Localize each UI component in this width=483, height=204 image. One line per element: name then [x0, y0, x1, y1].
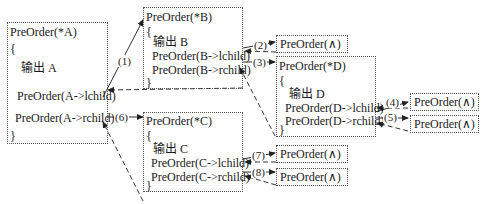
- box-C-rchild-call: PreOrder(C->rchild): [151, 170, 250, 184]
- box-B-rchild-call: PreOrder(B->rchild): [152, 63, 251, 77]
- null-call-box-D-right: PreOrder(∧): [410, 115, 479, 133]
- box-A-open-brace: {: [10, 42, 16, 56]
- box-A-rchild-call: PreOrder(A->rchild): [15, 111, 114, 125]
- step-label-5: (5): [383, 111, 398, 123]
- box-B-lchild-call: PreOrder(B->lchild): [152, 49, 250, 63]
- return-arrow-C: [103, 122, 143, 201]
- box-D-output: 输出 D: [289, 87, 325, 101]
- null-call-box-D-left: PreOrder(∧): [410, 93, 479, 111]
- box-D-rchild-call: PreOrder(D->rchild): [285, 114, 384, 128]
- preorder-box-D: PreOrder(*D) { 输出 D PreOrder(D->lchild) …: [276, 56, 376, 137]
- box-D-title: PreOrder(*D): [279, 59, 346, 73]
- box-C-close-brace: }: [146, 179, 152, 193]
- box-B-open-brace: {: [146, 25, 152, 39]
- box-C-title: PreOrder(*C): [146, 114, 212, 128]
- box-D-open-brace: {: [279, 74, 285, 88]
- step-label-1: (1): [117, 55, 132, 67]
- step-label-2: (2): [253, 39, 268, 51]
- preorder-box-A: PreOrder(*A) { 输出 A PreOrder(A->lchild) …: [7, 22, 108, 144]
- box-D-lchild-call: PreOrder(D->lchild): [285, 101, 384, 115]
- box-D-close-brace: }: [279, 123, 285, 137]
- box-C-lchild-call: PreOrder(C->lchild): [151, 156, 249, 170]
- box-B-close-brace: }: [146, 76, 152, 90]
- box-A-lchild-call: PreOrder(A->lchild): [17, 89, 116, 103]
- box-C-output: 输出 C: [153, 142, 188, 156]
- return-arrow-D: [240, 68, 275, 136]
- box-B-title: PreOrder(*B): [146, 10, 212, 24]
- preorder-box-C: PreOrder(*C) { 输出 C PreOrder(C->lchild) …: [143, 112, 243, 192]
- box-A-title: PreOrder(*A): [10, 25, 77, 39]
- box-A-output: 输出 A: [21, 61, 57, 75]
- box-A-close-brace: }: [10, 129, 16, 143]
- box-B-output: 输出 B: [153, 35, 188, 49]
- null-call-box-C-left: PreOrder(∧): [276, 145, 348, 163]
- step-label-7: (7): [251, 149, 266, 161]
- box-C-open-brace: {: [146, 129, 152, 143]
- preorder-box-B: PreOrder(*B) { 输出 B PreOrder(B->lchild) …: [143, 7, 243, 89]
- step-label-8: (8): [251, 166, 266, 178]
- null-call-box-B-left: PreOrder(∧): [276, 35, 348, 53]
- step-label-4: (4): [385, 96, 400, 108]
- step-label-3: (3): [252, 56, 267, 68]
- step-label-6: (6): [114, 111, 129, 123]
- null-call-box-C-right: PreOrder(∧): [276, 168, 348, 186]
